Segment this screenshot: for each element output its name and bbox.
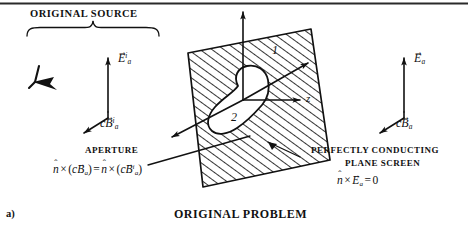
- incident-e-field-label: →Eia: [118, 52, 131, 66]
- cross-product-operator: ×: [59, 163, 69, 175]
- figure-caption: ORIGINAL PROBLEM: [174, 208, 307, 220]
- n-hat-symbol: ˆn: [337, 175, 343, 187]
- aperture-boundary-condition: ˆn×(c→Ba)=ˆn×(c→Bia): [53, 164, 142, 177]
- e-vector-symbol: →E: [352, 175, 359, 187]
- figure-original-problem: ORIGINAL SOURCE →Eia c→Bia →Ea c→Ba 1 2 …: [0, 0, 468, 238]
- e-vector-symbol: →E: [414, 52, 421, 64]
- hat-accent-icon: ˆ: [53, 160, 59, 169]
- panel-label: a): [6, 209, 15, 220]
- total-e-field-label: →Ea: [414, 52, 425, 66]
- right-paren: ): [138, 163, 142, 175]
- hat-accent-icon: ˆ: [337, 171, 343, 180]
- b-vector-symbol: →B: [126, 164, 133, 176]
- vector-arrow-icon: →: [125, 160, 132, 169]
- b-vector-symbol: →B: [401, 117, 408, 129]
- aperture-label: APERTURE: [85, 146, 138, 155]
- b-vector-symbol: →B: [105, 117, 112, 129]
- screen-label-line-1: PERFECTLY CONDUCTING: [311, 146, 439, 155]
- incident-b-field-label: c→Bia: [100, 117, 119, 131]
- vector-arrow-icon: →: [352, 171, 359, 180]
- e-vector-symbol: →E: [118, 52, 125, 64]
- zero-value: 0: [373, 174, 379, 186]
- vector-arrow-icon: →: [118, 48, 125, 57]
- vector-arrow-icon: →: [105, 113, 112, 122]
- equals-operator: =: [363, 174, 373, 186]
- vector-arrow-icon: →: [414, 48, 421, 57]
- field-subscript: a: [409, 122, 413, 131]
- field-subscript: a: [422, 57, 426, 66]
- source-symbol-icon: [29, 66, 57, 90]
- total-b-field-label: c→Ba: [396, 117, 413, 131]
- vector-arrow-icon: →: [77, 160, 84, 169]
- equals-operator: =: [92, 163, 102, 175]
- z-axis-label: z: [306, 93, 310, 104]
- vector-arrow-icon: →: [401, 113, 408, 122]
- hat-accent-icon: ˆ: [101, 160, 107, 169]
- region-label-1: 1: [272, 44, 278, 56]
- source-brace: [27, 22, 159, 37]
- screen-boundary-condition: ˆn×→Ea=0: [337, 175, 378, 188]
- field-subscript: a: [128, 57, 132, 66]
- region-label-2: 2: [231, 111, 237, 123]
- b-vector-symbol: →B: [77, 164, 84, 176]
- n-hat-symbol: ˆn: [101, 164, 107, 176]
- original-source-label: ORIGINAL SOURCE: [30, 9, 138, 20]
- field-subscript: a: [115, 122, 119, 131]
- screen-label-line-2: PLANE SCREEN: [345, 159, 420, 168]
- n-hat-symbol: ˆn: [53, 164, 59, 176]
- cross-product-operator: ×: [107, 163, 117, 175]
